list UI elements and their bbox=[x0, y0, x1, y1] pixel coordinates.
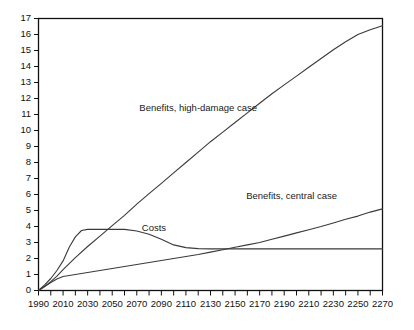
line-chart: 01234567891011121314151617 1990201020302… bbox=[0, 0, 414, 330]
x-tick-label: 1990 bbox=[28, 298, 49, 309]
x-tick-label: 2110 bbox=[176, 298, 196, 309]
x-axis-tick-labels: 1990201020302050207020902110213021502170… bbox=[28, 298, 393, 309]
x-tick-label: 2030 bbox=[77, 298, 98, 309]
y-tick-label: 1 bbox=[26, 268, 31, 279]
x-tick-label: 2190 bbox=[274, 298, 295, 309]
x-tick-label: 2210 bbox=[298, 298, 319, 309]
x-tick-label: 2090 bbox=[151, 298, 172, 309]
y-tick-label: 13 bbox=[20, 76, 31, 87]
y-tick-label: 6 bbox=[26, 188, 31, 199]
y-tick-label: 3 bbox=[26, 236, 31, 247]
chart-background bbox=[0, 0, 414, 330]
y-tick-label: 16 bbox=[20, 28, 31, 39]
y-tick-label: 14 bbox=[20, 60, 31, 71]
series-label-2: Benefits, central case bbox=[246, 190, 337, 201]
series-label-0: Benefits, high-damage case bbox=[139, 102, 257, 113]
x-tick-label: 2270 bbox=[372, 298, 393, 309]
y-tick-label: 0 bbox=[26, 284, 31, 295]
y-tick-label: 7 bbox=[26, 172, 31, 183]
y-tick-label: 11 bbox=[21, 108, 31, 119]
y-tick-label: 15 bbox=[20, 44, 31, 55]
x-tick-label: 2070 bbox=[126, 298, 147, 309]
y-tick-label: 8 bbox=[26, 156, 31, 167]
y-tick-label: 17 bbox=[20, 12, 31, 23]
x-tick-label: 2150 bbox=[225, 298, 246, 309]
y-tick-label: 9 bbox=[26, 140, 31, 151]
y-tick-label: 2 bbox=[26, 252, 31, 263]
x-tick-label: 2130 bbox=[200, 298, 221, 309]
x-tick-label: 2230 bbox=[323, 298, 344, 309]
y-tick-label: 12 bbox=[20, 92, 31, 103]
y-tick-label: 5 bbox=[26, 204, 31, 215]
chart-container: 01234567891011121314151617 1990201020302… bbox=[0, 0, 414, 330]
x-tick-label: 2010 bbox=[53, 298, 74, 309]
series-label-1: Costs bbox=[142, 222, 167, 233]
x-tick-label: 2170 bbox=[249, 298, 270, 309]
x-tick-label: 2250 bbox=[347, 298, 368, 309]
x-tick-label: 2050 bbox=[102, 298, 123, 309]
y-tick-label: 10 bbox=[20, 124, 31, 135]
y-tick-label: 4 bbox=[26, 220, 31, 231]
